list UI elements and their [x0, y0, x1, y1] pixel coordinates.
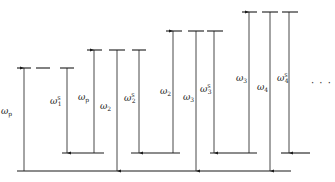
frequency-label: ωS2 [124, 92, 136, 104]
transition-arrows [24, 12, 289, 171]
frequency-label: ωp [1, 106, 12, 118]
ellipsis-continuation: · · · [311, 77, 332, 88]
frequency-label: ω2 [160, 86, 171, 97]
frequency-label: ωS3 [200, 83, 212, 95]
frequency-label: ω2 [100, 101, 111, 112]
energy-level-diagram: ωpωS1ωpω2ωS2ω2ω3ωS3ω3ω4ωS4 · · · [0, 0, 335, 182]
frequency-label: ω3 [183, 92, 194, 103]
frequency-labels: ωpωS1ωpω2ωS2ω2ω3ωS3ω3ω4ωS4 [1, 72, 289, 118]
frequency-label: ωS1 [50, 95, 62, 107]
frequency-label: ωp [78, 92, 89, 104]
frequency-label: ω3 [236, 73, 247, 84]
frequency-label: ω4 [257, 82, 268, 93]
frequency-label: ωS4 [277, 72, 289, 84]
